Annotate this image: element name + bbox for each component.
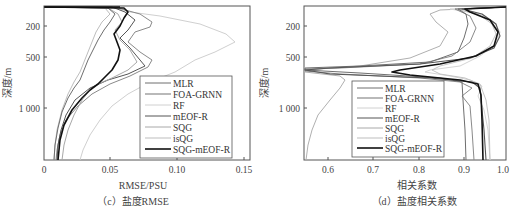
x-tick-0.10: 0.10 — [169, 165, 186, 175]
y-axis-label: 深度/m — [1, 68, 13, 99]
panel-d-correlation: 200 500 1 000 深度/m 0.6 0.7 0.8 0.9 1.0 相… — [258, 6, 509, 207]
y-axis-label: 深度/m — [258, 68, 270, 99]
y-tick-500: 500 — [286, 53, 301, 63]
legend-foa-grnn: FOA-GRNN — [385, 94, 434, 104]
legend: MLR FOA-GRNN RF mEOF-R SQG isQG SQG-mEOF… — [140, 76, 232, 158]
legend-mlr: MLR — [385, 84, 406, 94]
x-tick-1.0: 1.0 — [497, 165, 509, 175]
legend-rf: RF — [173, 101, 185, 111]
legend-sqg: SQG — [385, 124, 404, 134]
x-tick-0.6: 0.6 — [322, 165, 334, 175]
y-tick-500: 500 — [26, 53, 41, 63]
x-tick-0.05: 0.05 — [102, 165, 119, 175]
legend-foa-grnn: FOA-GRNN — [173, 90, 222, 100]
legend-meof-r: mEOF-R — [385, 114, 421, 124]
x-axis: 0.6 0.7 0.8 0.9 1.0 相关系数 — [322, 157, 509, 191]
legend-sqg-meof-r: SQG-mEOF-R — [385, 144, 443, 154]
y-tick-200: 200 — [286, 22, 301, 32]
caption-c: （c）盐度RMSE — [97, 195, 169, 207]
y-tick-1000: 1 000 — [19, 104, 41, 114]
x-tick-0.9: 0.9 — [458, 165, 470, 175]
legend-sqg-meof-r: SQG-mEOF-R — [173, 145, 231, 155]
y-axis: 200 500 1 000 深度/m — [1, 22, 47, 114]
y-axis: 200 500 1 000 深度/m — [258, 22, 307, 114]
legend-rf: RF — [385, 104, 397, 114]
legend-mlr: MLR — [173, 79, 194, 89]
panel-c-rmse: 200 500 1 000 深度/m 0 0.05 0.10 0.15 RMSE… — [1, 6, 253, 207]
x-tick-0: 0 — [42, 165, 47, 175]
x-tick-0.7: 0.7 — [367, 165, 379, 175]
x-axis-label: RMSE/PSU — [119, 180, 168, 191]
y-tick-200: 200 — [26, 22, 41, 32]
legend-meof-r: mEOF-R — [173, 112, 209, 122]
x-axis-label: 相关系数 — [397, 179, 437, 191]
legend-sqg: SQG — [173, 123, 192, 133]
y-tick-1000: 1 000 — [279, 104, 301, 114]
legend: MLR FOA-GRNN RF mEOF-R SQG isQG SQG-mEOF… — [352, 81, 444, 157]
legend-isqg: isQG — [385, 134, 405, 144]
legend-isqg: isQG — [173, 134, 193, 144]
x-tick-0.15: 0.15 — [236, 165, 253, 175]
x-tick-0.8: 0.8 — [413, 165, 425, 175]
caption-d: （d）盐度相关系数 — [372, 195, 457, 207]
x-axis: 0 0.05 0.10 0.15 RMSE/PSU — [42, 157, 253, 191]
figure: 200 500 1 000 深度/m 0 0.05 0.10 0.15 RMSE… — [0, 0, 511, 209]
